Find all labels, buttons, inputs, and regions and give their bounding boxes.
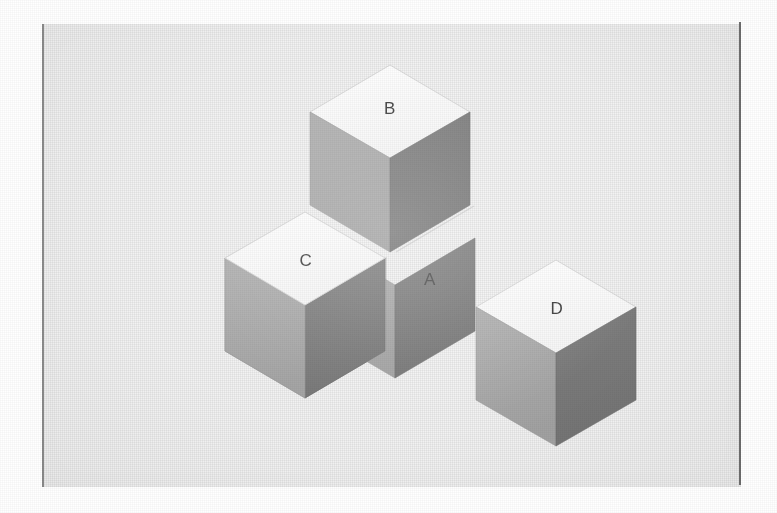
- isometric-block-diagram: C A C B: [0, 0, 777, 513]
- cube-b[interactable]: B: [310, 65, 470, 252]
- cube-d[interactable]: D: [476, 260, 636, 446]
- cube-a-label: A: [424, 270, 436, 289]
- cube-c-overlap: C: [225, 212, 385, 398]
- cube-c-label-front: C: [300, 251, 313, 270]
- cube-b-label: B: [384, 99, 396, 118]
- cube-d-label: D: [551, 299, 564, 318]
- figure-canvas: C A C B: [0, 0, 777, 513]
- cube-a-right-face: [395, 238, 475, 378]
